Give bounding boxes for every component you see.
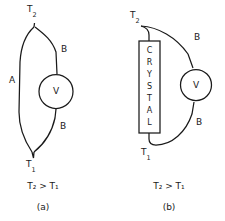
- wire-b-upper-label-a: B: [61, 45, 67, 54]
- relation-a: T₂ > T₁: [0, 182, 86, 191]
- cold-junction-label-b: T1: [141, 148, 151, 157]
- cold-junction-subscript-a: 1: [32, 166, 36, 174]
- cold-junction-subscript-b: 1: [147, 154, 151, 162]
- crystal-letter-r: R: [147, 59, 153, 67]
- wire-b-lower-label-b: B: [196, 118, 202, 127]
- crystal-label: C R Y S T A L: [141, 47, 158, 127]
- hot-junction-subscript-b: 2: [136, 17, 140, 25]
- crystal-letter-t: T: [147, 95, 152, 103]
- cold-junction-vertex: [32, 152, 34, 158]
- crystal-top-lead: [141, 26, 149, 41]
- wire-b-upper-label-b: B: [194, 33, 200, 42]
- relation-text-b: T₂ > T₁: [153, 181, 184, 191]
- crystal-letter-a: A: [147, 107, 152, 115]
- caption-a: (a): [0, 203, 86, 212]
- panel-b: C R Y S T A L T2 T1 B B V T₂ > T₁ (b): [112, 0, 224, 221]
- wire-a-label: A: [9, 76, 15, 85]
- cold-junction-letter-a: T: [26, 159, 32, 169]
- cold-junction-letter-b: T: [141, 147, 147, 157]
- crystal-letter-y: Y: [147, 71, 152, 79]
- hot-junction-vertex: [34, 23, 35, 27]
- hot-junction-subscript-a: 2: [33, 11, 37, 19]
- crystal-bottom-lead: [149, 133, 156, 145]
- wire-b-lower-path: [34, 109, 56, 152]
- hot-junction-letter-a: T: [27, 4, 33, 14]
- hot-junction-label-a: T2: [27, 5, 37, 14]
- wire-a-path: [19, 27, 34, 152]
- relation-b: T₂ > T₁: [126, 182, 212, 191]
- relation-text-a: T₂ > T₁: [27, 181, 58, 191]
- voltmeter-label-b: V: [193, 81, 199, 90]
- crystal-letter-c: C: [147, 47, 153, 55]
- hot-junction-letter-b: T: [130, 10, 136, 20]
- thermocouple-figure-page: T2 T1 A B B V T₂ > T₁ (a): [0, 0, 225, 221]
- cold-junction-label-a: T1: [26, 160, 36, 169]
- crystal-letter-l: L: [147, 119, 151, 127]
- wire-b-lower-path-b: [156, 102, 194, 145]
- wire-b-upper-path: [35, 27, 57, 74]
- hot-junction-label-b: T2: [130, 11, 140, 20]
- voltmeter-label-a: V: [53, 87, 59, 96]
- caption-b: (b): [126, 203, 212, 212]
- wire-b-lower-label-a: B: [60, 122, 66, 131]
- crystal-letter-s: S: [147, 83, 152, 91]
- panel-a: T2 T1 A B B V T₂ > T₁ (a): [0, 0, 112, 221]
